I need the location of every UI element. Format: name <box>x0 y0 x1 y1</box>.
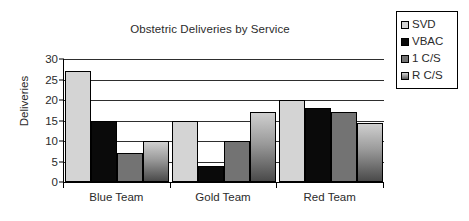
bar <box>279 100 305 182</box>
legend-item-rcs: R C/S <box>401 67 453 84</box>
bar-group <box>172 59 276 182</box>
bar <box>305 108 331 182</box>
legend-label: 1 C/S <box>412 53 441 65</box>
y-tick-label: 25 <box>45 74 58 86</box>
bar <box>91 121 117 183</box>
bar <box>65 71 91 182</box>
y-axis-title: Deliveries <box>18 56 30 146</box>
chart-title: Obstetric Deliveries by Service <box>60 23 360 35</box>
bar-chart: Obstetric Deliveries by Service Deliveri… <box>0 0 469 221</box>
y-tick-label: 0 <box>52 176 58 188</box>
x-tick-mark <box>63 182 64 188</box>
bars-layer <box>64 59 384 182</box>
bar <box>143 141 169 182</box>
y-tick-label: 30 <box>45 53 58 65</box>
legend-swatch-icon <box>401 21 409 29</box>
bar-group <box>65 59 169 182</box>
x-axis-label: Red Team <box>304 191 356 203</box>
legend-item-svd: SVD <box>401 16 453 33</box>
legend-label: VBAC <box>412 36 443 48</box>
bar <box>331 112 357 182</box>
legend-swatch-icon <box>401 55 409 63</box>
legend-label: R C/S <box>412 70 443 82</box>
bar <box>357 123 383 182</box>
gridline <box>64 182 384 183</box>
bar <box>224 141 250 182</box>
y-tick-label: 20 <box>45 94 58 106</box>
y-tick-label: 5 <box>52 156 58 168</box>
x-tick-mark <box>276 182 277 188</box>
bar <box>172 121 198 183</box>
bar <box>198 166 224 182</box>
y-tick-label: 15 <box>45 115 58 127</box>
legend-swatch-icon <box>401 72 409 80</box>
x-axis-label: Gold Team <box>195 191 250 203</box>
bar-group <box>279 59 383 182</box>
plot-area: 051015202530 <box>63 59 383 182</box>
x-tick-mark <box>170 182 171 188</box>
chart-legend: SVD VBAC 1 C/S R C/S <box>396 11 458 89</box>
legend-label: SVD <box>412 19 436 31</box>
x-axis-label: Blue Team <box>89 191 143 203</box>
x-tick-mark <box>383 182 384 188</box>
bar <box>117 153 143 182</box>
y-tick-label: 10 <box>45 135 58 147</box>
bar <box>250 112 276 182</box>
legend-item-vbac: VBAC <box>401 33 453 50</box>
legend-item-1cs: 1 C/S <box>401 50 453 67</box>
legend-swatch-icon <box>401 38 409 46</box>
